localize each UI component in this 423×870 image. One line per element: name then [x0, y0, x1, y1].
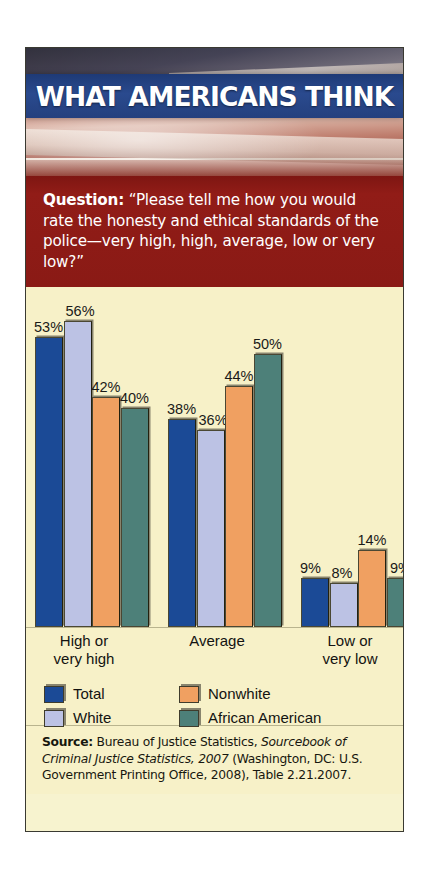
legend-label: African American	[208, 709, 321, 726]
bar-total: 53%	[35, 337, 63, 627]
bar-white: 56%	[64, 321, 92, 627]
bar-value-label: 50%	[253, 336, 282, 352]
legend-swatch-african-american	[179, 710, 199, 727]
x-axis-label: Low orvery low	[285, 632, 404, 668]
bar-nonwhite: 42%	[92, 397, 120, 627]
chart-legend: Total White Nonwhite African American	[26, 674, 403, 726]
legend-swatch-white	[44, 710, 64, 727]
bar-value-label: 44%	[224, 368, 253, 384]
bar-value-label: 56%	[66, 303, 95, 319]
x-axis-label: High orvery high	[25, 632, 149, 668]
bar-african-american: 9%	[387, 578, 405, 627]
source-label: Source:	[42, 735, 93, 749]
bar-nonwhite: 14%	[358, 550, 386, 627]
bar-value-label: 38%	[167, 401, 196, 417]
x-axis-label: Average	[152, 632, 282, 650]
bar-group-low-or-very-low: 9%8%14%9%	[301, 293, 404, 627]
question-label: Question:	[43, 191, 124, 209]
chart-plot-area: 53%56%42%40%38%36%44%50%9%8%14%9%	[35, 293, 394, 627]
bar-white: 8%	[330, 583, 358, 627]
bar-value-label: 9%	[390, 560, 404, 576]
bar-group-high-or-very-high: 53%56%42%40%	[35, 293, 147, 627]
bar-value-label: 40%	[120, 390, 149, 406]
bar-african-american: 40%	[121, 408, 149, 627]
legend-item: White	[44, 706, 111, 728]
bar-chart: 53%56%42%40%38%36%44%50%9%8%14%9%	[26, 287, 403, 628]
legend-item: Total	[44, 682, 111, 704]
bar-african-american: 50%	[254, 354, 282, 627]
bar-value-label: 8%	[332, 565, 353, 581]
legend-swatch-nonwhite	[179, 686, 199, 703]
legend-item: Nonwhite	[179, 682, 321, 704]
source-note: Source: Bureau of Justice Statistics, So…	[26, 726, 403, 794]
legend-label: White	[73, 709, 111, 726]
bar-total: 38%	[168, 419, 196, 627]
bar-nonwhite: 44%	[225, 386, 253, 627]
legend-item: African American	[179, 706, 321, 728]
question-text: Question: “Please tell me how you would …	[43, 190, 386, 272]
legend-swatch-total	[44, 686, 64, 703]
bar-value-label: 36%	[199, 412, 228, 428]
bar-total: 9%	[301, 578, 329, 627]
source-text-1: Bureau of Justice Statistics,	[93, 735, 261, 749]
page-title: WHAT AMERICANS THINK	[26, 75, 403, 119]
legend-column-left: Total White	[44, 682, 111, 730]
what-americans-think-card: WHAT AMERICANS THINK Question: “Please t…	[25, 47, 404, 832]
bar-white: 36%	[197, 430, 225, 627]
bar-value-label: 53%	[34, 319, 63, 335]
bar-value-label: 42%	[91, 379, 120, 395]
bar-group-average: 38%36%44%50%	[168, 293, 280, 627]
legend-label: Total	[73, 685, 105, 702]
legend-column-right: Nonwhite African American	[179, 682, 321, 730]
chart-x-axis: High orvery highAverageLow orvery low	[26, 628, 403, 674]
bar-value-label: 14%	[357, 532, 386, 548]
question-block: Question: “Please tell me how you would …	[26, 176, 403, 287]
bar-value-label: 9%	[300, 560, 321, 576]
banner: WHAT AMERICANS THINK	[26, 48, 403, 176]
flag-bottom-stripe	[26, 160, 403, 176]
legend-label: Nonwhite	[208, 685, 271, 702]
